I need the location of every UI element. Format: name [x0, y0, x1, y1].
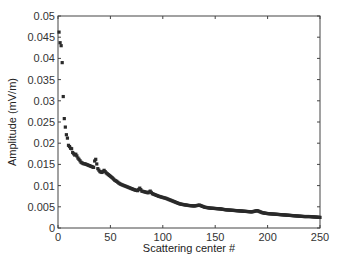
data-point — [58, 41, 61, 44]
y-axis-label: Amplitude (mV/m) — [6, 78, 18, 166]
y-tick-label: 0.025 — [27, 116, 55, 128]
data-point — [92, 166, 95, 169]
data-point — [57, 31, 60, 34]
y-tick-label: 0.02 — [34, 137, 55, 149]
data-point — [62, 95, 65, 98]
data-point — [65, 133, 68, 136]
data-point — [94, 158, 97, 161]
y-tick-label: 0.005 — [27, 201, 55, 213]
data-point — [95, 162, 98, 165]
y-tick-label: 0.05 — [34, 10, 55, 22]
x-tick-label: 200 — [258, 231, 276, 243]
scatter-chart: 00.0050.010.0150.020.0250.030.0350.040.0… — [0, 0, 340, 267]
x-tick-label: 250 — [311, 231, 329, 243]
data-point — [66, 137, 69, 140]
x-tick-label: 0 — [55, 231, 61, 243]
x-tick-label: 50 — [104, 231, 116, 243]
x-axis-label: Scattering center # — [143, 242, 236, 254]
y-tick-label: 0.04 — [34, 52, 55, 64]
plot-area — [58, 16, 320, 228]
data-point — [60, 44, 63, 47]
y-tick-label: 0.045 — [27, 31, 55, 43]
data-point — [63, 117, 66, 120]
y-tick-label: 0.03 — [34, 95, 55, 107]
data-point — [64, 125, 67, 128]
y-tick-label: 0.015 — [27, 158, 55, 170]
data-point — [318, 216, 321, 219]
data-point — [70, 147, 73, 150]
y-tick-label: 0.01 — [34, 180, 55, 192]
data-point — [61, 61, 64, 64]
y-tick-label: 0.035 — [27, 74, 55, 86]
